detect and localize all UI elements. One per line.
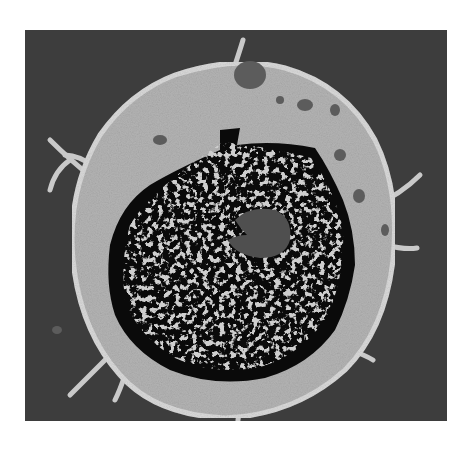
micrograph-frame: [25, 30, 447, 421]
cell-micrograph: [25, 30, 447, 421]
